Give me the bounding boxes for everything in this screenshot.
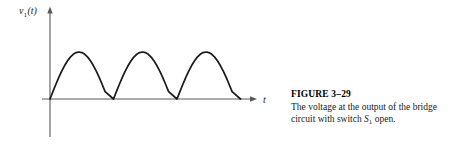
figure-caption-body: The voltage at the output of the bridge … [291,101,456,129]
figure-caption-title: FIGURE 3–29 [291,88,456,100]
caption-line-2-post: open. [372,114,395,124]
x-axis-arrowhead [250,96,257,101]
y-axis-arrowhead [47,7,52,14]
waveform-plot: v1(t) t [0,0,278,144]
x-axis-label: t [263,94,266,105]
plot-panel: v1(t) t [0,0,278,144]
y-axis-label-arg: (t) [27,5,37,17]
y-axis [47,7,52,138]
x-axis [42,96,257,101]
figure-container: v1(t) t FIGURE 3–29 The voltage at the o… [0,0,458,144]
caption-line-1: The voltage at the output of the [291,102,410,112]
y-axis-label: v1(t) [19,5,38,18]
rectified-sine-waveform [50,52,241,99]
figure-caption: FIGURE 3–29 The voltage at the output of… [291,88,456,128]
